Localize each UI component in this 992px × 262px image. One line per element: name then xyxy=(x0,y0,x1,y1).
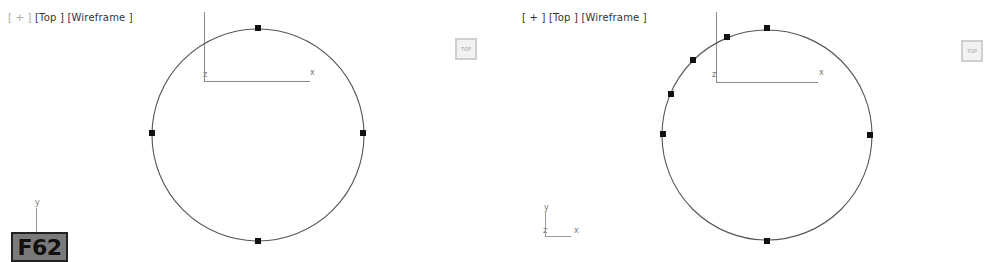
circle-splines[interactable] xyxy=(152,29,872,241)
vertex-handle[interactable] xyxy=(660,131,666,137)
vertex-handle[interactable] xyxy=(690,57,696,63)
spline-vertices[interactable] xyxy=(149,25,873,244)
figure-badge: F62 xyxy=(11,232,68,262)
circle-spline-left[interactable] xyxy=(152,29,364,241)
vertex-handle[interactable] xyxy=(668,91,674,97)
vertex-handle[interactable] xyxy=(724,34,730,40)
vertex-handle[interactable] xyxy=(255,238,261,244)
vertex-handle[interactable] xyxy=(764,25,770,31)
grid-axes-right xyxy=(716,12,818,83)
scene-canvas[interactable] xyxy=(0,0,992,262)
vertex-handle[interactable] xyxy=(867,132,873,138)
vertex-handle[interactable] xyxy=(255,25,261,31)
vertex-handle[interactable] xyxy=(360,130,366,136)
axis-tripod-right xyxy=(545,212,571,237)
vertex-handle[interactable] xyxy=(764,238,770,244)
grid-axes-left xyxy=(204,12,310,82)
vertex-handle[interactable] xyxy=(149,130,155,136)
